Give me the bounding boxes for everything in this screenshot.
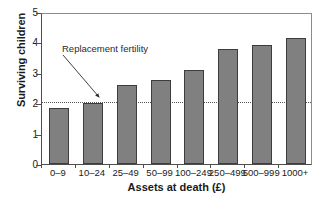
bar (151, 80, 171, 164)
x-axis-tick-mark (210, 165, 211, 168)
x-axis-tick-mark (244, 165, 245, 168)
y-axis-tick-label: 2 (8, 99, 38, 109)
x-axis-tick-label: 1000+ (268, 167, 322, 178)
x-axis-tick-mark (75, 165, 76, 168)
bar (83, 103, 103, 164)
x-axis-tick-mark (109, 165, 110, 168)
bar (49, 108, 69, 164)
annotation-label-replacement-fertility: Replacement fertility (62, 43, 148, 54)
y-axis-tick-label: 1 (8, 130, 38, 140)
x-axis-tick-mark (177, 165, 178, 168)
x-axis-title: Assets at death (£) (41, 181, 312, 193)
bar-chart-figure: Surviving children 012345 0–910–2425–495… (0, 0, 324, 201)
bar (286, 38, 306, 164)
y-axis-tick-label: 3 (8, 69, 38, 79)
y-axis-tick-label: 4 (8, 38, 38, 48)
x-axis-tick-mark (143, 165, 144, 168)
bar (218, 49, 238, 164)
x-axis-tick-mark (41, 165, 42, 168)
bar (252, 45, 272, 164)
y-axis-tick-label: 5 (8, 8, 38, 18)
plot-area (41, 13, 312, 165)
x-axis-tick-mark (278, 165, 279, 168)
bar (184, 70, 204, 164)
bar (117, 85, 137, 164)
